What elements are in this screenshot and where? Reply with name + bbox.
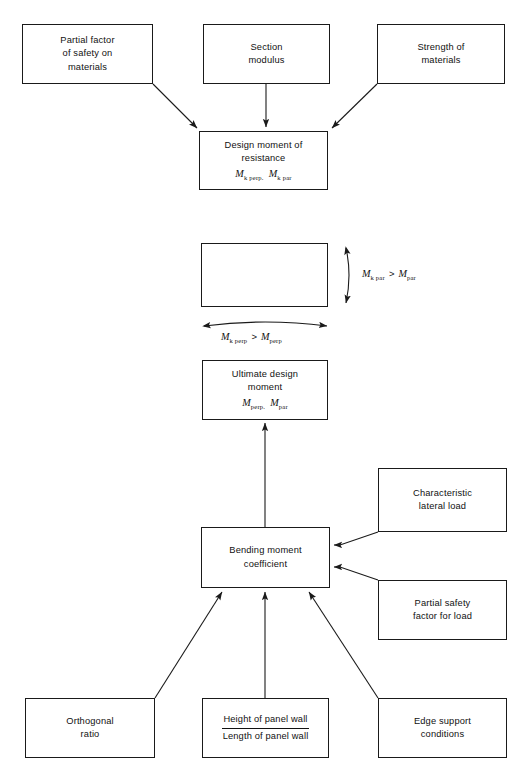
node-line: of safety on bbox=[63, 47, 113, 60]
node-orthogonal-ratio: Orthogonal ratio bbox=[25, 698, 155, 758]
connector-partial-safety-to-bending-coefficient bbox=[334, 567, 378, 580]
arrow-moment-perpendicular bbox=[204, 322, 327, 326]
connector-edge-support-to-bending-coefficient bbox=[309, 592, 378, 698]
connector-strength-to-design-moment bbox=[332, 84, 377, 128]
node-edge-support-conditions: Edge support conditions bbox=[378, 698, 507, 758]
annotation-moment-perpendicular: Mk perp>Mperp bbox=[221, 331, 282, 344]
node-line: Ultimate design bbox=[232, 368, 298, 381]
node-line: conditions bbox=[421, 728, 464, 741]
node-line: Characteristic bbox=[413, 487, 472, 500]
node-line: Design moment of bbox=[225, 139, 303, 152]
node-line: lateral load bbox=[419, 500, 466, 513]
node-line: factor for load bbox=[413, 610, 472, 623]
node-section-modulus: Section modulus bbox=[203, 24, 330, 84]
node-line: materials bbox=[421, 54, 460, 67]
node-line: resistance bbox=[242, 152, 286, 165]
node-ultimate-design-moment: Ultimate design moment Mperp.Mpar bbox=[202, 360, 328, 420]
panel-wall-fraction: Height of panel wall Length of panel wal… bbox=[222, 713, 308, 742]
node-line: materials bbox=[68, 61, 107, 74]
ultimate-moment-symbols: Mperp.Mpar bbox=[242, 396, 288, 411]
node-line: Partial factor bbox=[60, 34, 114, 47]
node-design-moment-of-resistance: Design moment of resistance Mk perp.Mk p… bbox=[199, 131, 328, 190]
annotation-moment-parallel: Mk par>Mpar bbox=[362, 268, 416, 281]
node-characteristic-lateral-load: Characteristic lateral load bbox=[378, 468, 507, 532]
fraction-numerator: Height of panel wall bbox=[222, 713, 308, 728]
node-partial-factor-of-safety-on-materials: Partial factor of safety on materials bbox=[22, 24, 153, 84]
connector-partial-factor-to-design-moment bbox=[153, 84, 197, 128]
node-line: Bending moment bbox=[229, 544, 301, 557]
node-panel-wall-height-length-ratio: Height of panel wall Length of panel wal… bbox=[202, 698, 329, 758]
node-line: modulus bbox=[248, 54, 284, 67]
arrow-moment-parallel bbox=[346, 248, 349, 303]
node-line: moment bbox=[248, 381, 282, 394]
flowchart-diagram: Partial factor of safety on materials Se… bbox=[0, 0, 529, 778]
fraction-denominator: Length of panel wall bbox=[223, 729, 309, 743]
node-line: ratio bbox=[81, 728, 100, 741]
node-bending-moment-coefficient: Bending moment coefficient bbox=[201, 527, 330, 588]
node-partial-safety-factor-for-load: Partial safety factor for load bbox=[378, 580, 507, 640]
node-line: coefficient bbox=[244, 558, 287, 571]
design-moment-symbols: Mk perp.Mk par bbox=[235, 167, 291, 182]
node-line: Partial safety bbox=[415, 597, 471, 610]
node-strength-of-materials: Strength of materials bbox=[377, 24, 505, 84]
node-line: Strength of bbox=[417, 41, 464, 54]
connector-orthogonal-ratio-to-bending-coefficient bbox=[155, 592, 222, 698]
connector-characteristic-load-to-bending-coefficient bbox=[334, 532, 378, 545]
node-line: Section bbox=[250, 41, 282, 54]
panel-wall-sketch bbox=[201, 243, 328, 307]
node-line: Orthogonal bbox=[66, 715, 114, 728]
node-line: Edge support bbox=[414, 715, 471, 728]
